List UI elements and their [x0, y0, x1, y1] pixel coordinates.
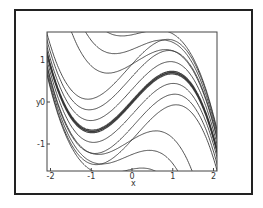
- x-tick-label: 2: [211, 172, 216, 181]
- x-axis-label: x: [131, 179, 136, 188]
- x-tick-label: 1: [170, 172, 175, 181]
- solution-curve: [46, 0, 217, 132]
- y-axis-label: y: [36, 98, 41, 107]
- y-tick-label: -1: [37, 140, 45, 149]
- solution-curve: [46, 51, 217, 153]
- x-tick-label: -1: [87, 172, 95, 181]
- x-tick-label: -2: [47, 172, 55, 181]
- plot: -2-101210-1 x y: [0, 0, 263, 208]
- y-tick-label: 1: [40, 56, 45, 65]
